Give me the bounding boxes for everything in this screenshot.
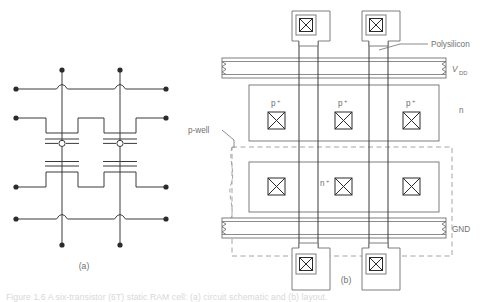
n-plus-label-main: n — [320, 179, 325, 188]
panel-b-layout — [222, 11, 452, 290]
wire-bottom-wordline — [16, 215, 166, 220]
terminal-dot-bottom-right — [117, 242, 122, 247]
p-plus-label-2-main: p — [338, 99, 343, 108]
terminal-dot-w1-right — [163, 86, 168, 91]
terminal-dot-top-right — [117, 67, 122, 72]
panel-a-label: (a) — [79, 261, 90, 271]
wire-pmos-source — [16, 118, 166, 133]
vdd-label-main: V — [452, 65, 459, 74]
wire-nmos-source — [16, 172, 166, 187]
pmos-left-bubble — [59, 140, 65, 146]
panel-a-circuit — [13, 67, 168, 247]
gnd-label: GND — [452, 225, 470, 234]
terminal-dot-w3-right — [163, 184, 168, 189]
vdd-metal-bar — [222, 58, 446, 78]
polysilicon-label: Polysilicon — [431, 40, 470, 49]
p-plus-label-3-main: p — [406, 99, 411, 108]
vdd-label: V DD — [452, 65, 467, 76]
figure-caption: Figure 1.6 A six-transistor (6T) static … — [6, 293, 328, 302]
p-plus-label-1-main: p — [271, 99, 276, 108]
terminal-dot-w3-left — [13, 184, 18, 189]
terminal-dot-w1-left — [13, 86, 18, 91]
pmos-transistor-right — [103, 139, 137, 146]
terminal-dot-top-left — [59, 67, 64, 72]
terminal-dot-bottom-left — [59, 242, 64, 247]
terminal-dot-w2-right — [163, 115, 168, 120]
vdd-label-sub: DD — [459, 70, 467, 76]
figure-svg: (a) — [0, 0, 501, 302]
wire-top-wordline — [16, 85, 166, 90]
pmos-right-bubble — [117, 140, 123, 146]
top-contact-pads — [292, 11, 400, 46]
p-well-leader-line — [222, 130, 234, 148]
terminal-dot-w4-right — [163, 216, 168, 221]
gnd-metal-bar — [222, 218, 446, 238]
panel-b-label: (b) — [341, 275, 352, 285]
n-region-label: n — [459, 106, 464, 115]
figure-root: (a) — [0, 0, 501, 302]
terminal-dot-w2-left — [13, 115, 18, 120]
terminal-dot-w4-left — [13, 216, 18, 221]
figure-caption-row: Figure 1.6 A six-transistor (6T) static … — [0, 293, 501, 302]
pmos-transistor-left — [45, 139, 79, 146]
p-well-label: p-well — [188, 126, 210, 135]
